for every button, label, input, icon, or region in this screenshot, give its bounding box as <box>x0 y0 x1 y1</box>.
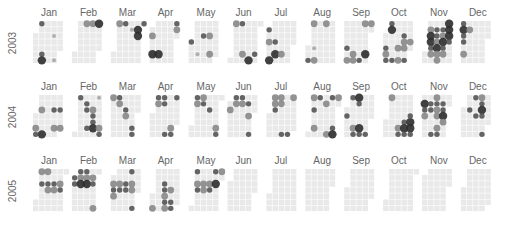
day-cell <box>395 169 401 175</box>
day-cell <box>324 95 330 101</box>
day-cell <box>168 27 174 32</box>
day-cell <box>129 193 135 199</box>
data-point <box>246 132 251 137</box>
day-cell <box>123 95 129 101</box>
day-cell <box>318 33 324 39</box>
day-cell <box>318 126 324 132</box>
day-cell <box>279 45 285 51</box>
month-label: Nov <box>430 7 448 18</box>
data-point <box>427 51 434 58</box>
day-cell <box>111 132 117 138</box>
day-cell <box>135 187 141 193</box>
day-cell <box>207 113 213 119</box>
day-cell <box>473 132 479 138</box>
data-point <box>239 100 246 107</box>
day-cell <box>422 187 428 193</box>
day-cell <box>162 58 168 64</box>
day-cell <box>84 119 90 125</box>
day-cell <box>45 45 51 51</box>
day-cell <box>330 58 336 64</box>
day-cell <box>401 200 407 206</box>
data-point <box>161 205 168 212</box>
data-point <box>362 20 369 27</box>
day-cell <box>291 175 297 181</box>
day-cell <box>479 119 485 125</box>
day-cell <box>434 206 440 212</box>
day-cell <box>252 107 258 113</box>
data-point <box>134 32 142 40</box>
day-cell <box>311 52 317 58</box>
data-point <box>395 45 402 52</box>
day-cell <box>363 113 369 119</box>
month-label: Oct <box>391 155 407 166</box>
day-cell <box>162 21 168 27</box>
day-cell <box>117 39 123 45</box>
day-cell <box>401 206 407 212</box>
day-cell <box>408 175 414 181</box>
day-cell <box>369 107 375 113</box>
day-cell <box>150 126 156 132</box>
day-cell <box>479 200 485 206</box>
day-cell <box>305 206 311 212</box>
day-cell <box>356 113 362 119</box>
day-cell <box>414 169 420 175</box>
day-cell <box>473 33 479 39</box>
day-cell <box>117 200 123 206</box>
data-point <box>240 95 245 100</box>
day-cell <box>207 200 213 206</box>
day-cell <box>57 206 63 212</box>
day-cell <box>363 33 369 39</box>
data-point <box>311 57 318 64</box>
data-point <box>90 107 97 114</box>
day-cell <box>123 39 129 45</box>
data-point <box>478 106 486 114</box>
day-cell <box>201 193 207 199</box>
day-cell <box>234 206 240 212</box>
day-cell <box>291 181 297 187</box>
day-cell <box>473 45 479 51</box>
day-cell <box>246 175 252 181</box>
data-point <box>97 96 101 100</box>
day-cell <box>279 175 285 181</box>
day-cell <box>228 126 234 132</box>
day-cell <box>273 193 279 199</box>
data-point <box>328 130 336 138</box>
day-cell <box>117 45 123 51</box>
day-cell <box>285 45 291 51</box>
day-cell <box>240 39 246 45</box>
day-cell <box>479 27 485 32</box>
day-cell <box>240 27 246 32</box>
day-cell <box>174 113 180 119</box>
day-cell <box>90 52 96 58</box>
day-cell <box>189 58 195 64</box>
data-point <box>323 20 330 27</box>
data-point <box>207 187 212 192</box>
day-cell <box>246 181 252 187</box>
data-point <box>440 101 445 106</box>
day-cell <box>156 193 162 199</box>
day-cell <box>440 126 446 132</box>
day-cell <box>273 126 279 132</box>
day-cell <box>195 39 201 45</box>
day-cell <box>207 193 213 199</box>
day-cell <box>189 52 195 58</box>
day-cell <box>90 45 96 51</box>
day-cell <box>266 200 272 206</box>
data-point <box>38 130 46 138</box>
day-cell <box>291 33 297 39</box>
day-cell <box>344 126 350 132</box>
day-cell <box>39 175 45 181</box>
day-cell <box>156 200 162 206</box>
day-cell <box>467 126 473 132</box>
day-cell <box>356 181 362 187</box>
day-cell <box>473 181 479 187</box>
day-cell <box>252 181 258 187</box>
data-point <box>428 107 433 112</box>
data-point <box>116 181 123 188</box>
day-cell <box>207 169 213 175</box>
day-cell <box>389 126 395 132</box>
month-label: Apr <box>158 155 174 166</box>
day-cell <box>39 27 45 32</box>
day-cell <box>434 21 440 27</box>
data-point <box>110 94 117 101</box>
